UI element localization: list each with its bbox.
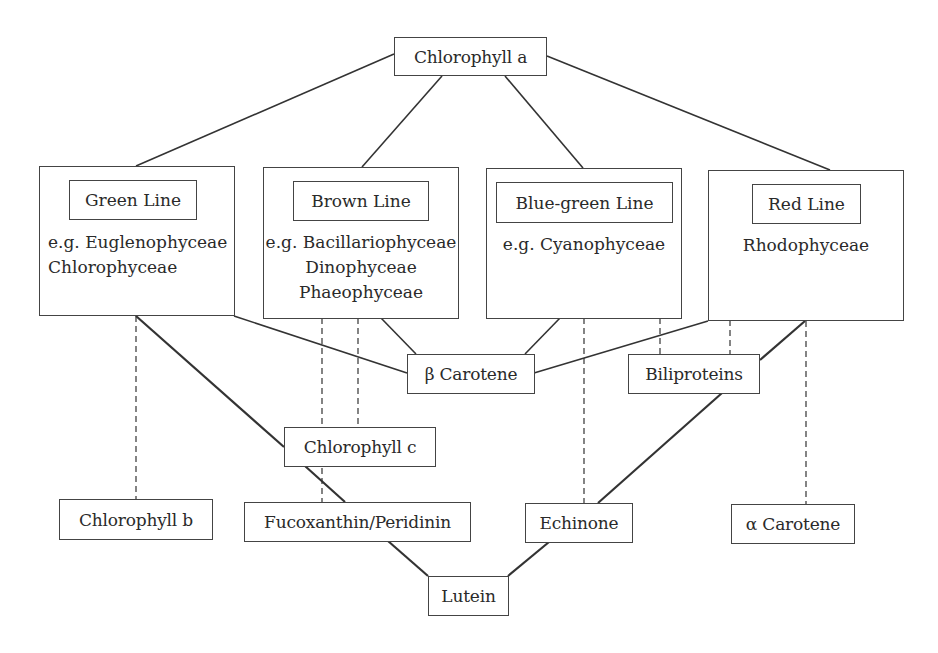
member-label: Dinophyceae bbox=[264, 255, 458, 280]
group-members-bluegreen-line: e.g. Cyanophyceae bbox=[487, 232, 681, 257]
edge-brown-betacarotene bbox=[381, 318, 416, 354]
edge-red-biliproteins-solid bbox=[760, 321, 805, 360]
group-title-brown-line: Brown Line bbox=[293, 181, 429, 221]
group-title-red-line: Red Line bbox=[752, 184, 861, 224]
group-bluegreen-line: Blue-green Line e.g. Cyanophyceae bbox=[486, 168, 682, 319]
member-label: Rhodophyceae bbox=[709, 233, 903, 258]
member-label: e.g. Euglenophyceae bbox=[48, 230, 234, 255]
edge-chla-red bbox=[547, 56, 830, 170]
group-members-brown-line: e.g. Bacillariophyceae Dinophyceae Phaeo… bbox=[264, 230, 458, 305]
edge-chla-brown bbox=[362, 76, 442, 167]
group-title-bluegreen-line: Blue-green Line bbox=[496, 182, 673, 223]
node-beta-carotene: β Carotene bbox=[407, 354, 535, 394]
edge-green-betacarotene bbox=[234, 316, 407, 373]
edge-chlc-fucoxanthin bbox=[305, 466, 345, 502]
member-label: e.g. Cyanophyceae bbox=[487, 232, 681, 257]
node-lutein: Lutein bbox=[428, 576, 509, 616]
group-members-red-line: Rhodophyceae bbox=[709, 233, 903, 258]
connector-layer bbox=[0, 0, 938, 653]
node-chlorophyll-c: Chlorophyll c bbox=[284, 427, 436, 467]
node-chlorophyll-a: Chlorophyll a bbox=[394, 37, 547, 76]
edge-chla-bluegreen bbox=[505, 76, 583, 168]
member-label: e.g. Bacillariophyceae bbox=[264, 230, 458, 255]
group-members-green-line: e.g. Euglenophyceae Chlorophyceae bbox=[40, 230, 234, 280]
node-biliproteins: Biliproteins bbox=[628, 354, 760, 394]
edge-echinone-lutein bbox=[508, 542, 549, 576]
group-red-line: Red Line Rhodophyceae bbox=[708, 170, 904, 321]
edge-fucoxanthin-lutein bbox=[388, 541, 428, 576]
edge-biliproteins-echinone bbox=[598, 393, 722, 503]
node-echinone: Echinone bbox=[525, 503, 633, 543]
group-title-green-line: Green Line bbox=[69, 180, 197, 220]
member-label: Phaeophyceae bbox=[264, 280, 458, 305]
group-green-line: Green Line e.g. Euglenophyceae Chlorophy… bbox=[39, 166, 235, 316]
member-label: Chlorophyceae bbox=[48, 255, 234, 280]
node-alpha-carotene: α Carotene bbox=[731, 504, 855, 544]
edge-bluegreen-betacarotene bbox=[525, 318, 560, 354]
group-brown-line: Brown Line e.g. Bacillariophyceae Dinoph… bbox=[263, 167, 459, 319]
node-chlorophyll-b: Chlorophyll b bbox=[59, 499, 213, 540]
edge-green-chlc bbox=[136, 316, 284, 447]
edge-chla-green bbox=[136, 54, 394, 166]
node-fucoxanthin-peridinin: Fucoxanthin/Peridinin bbox=[244, 502, 471, 542]
